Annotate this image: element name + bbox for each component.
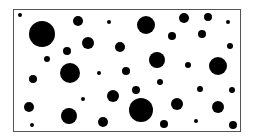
dot <box>29 21 55 47</box>
dot <box>226 20 230 24</box>
dot <box>212 101 224 113</box>
dot <box>179 13 189 23</box>
dot <box>97 71 101 75</box>
dot <box>198 30 206 38</box>
dot <box>122 67 130 75</box>
dot <box>73 16 83 26</box>
dot <box>209 57 227 75</box>
dot <box>194 119 198 123</box>
dot <box>60 63 80 83</box>
dot <box>63 47 71 55</box>
dot <box>18 13 22 17</box>
dot <box>30 123 34 127</box>
dot <box>160 120 168 128</box>
dot <box>168 32 176 40</box>
dot <box>98 117 108 127</box>
dot <box>29 75 37 83</box>
dot <box>137 16 155 34</box>
dot <box>82 37 94 49</box>
dot-pattern <box>0 0 254 140</box>
dot <box>171 98 183 110</box>
dot <box>227 43 233 49</box>
dot <box>157 79 163 85</box>
dot <box>229 87 235 93</box>
dot <box>197 86 203 92</box>
dot <box>107 20 111 24</box>
dot <box>24 102 34 112</box>
dot <box>129 98 153 122</box>
dot <box>132 86 140 94</box>
dot <box>61 108 77 124</box>
dot <box>107 90 119 102</box>
dot <box>229 121 237 129</box>
dot <box>44 56 50 62</box>
dot <box>204 13 212 21</box>
dot <box>185 62 191 68</box>
dot <box>81 97 85 101</box>
dot <box>149 52 165 68</box>
dot <box>115 42 125 52</box>
